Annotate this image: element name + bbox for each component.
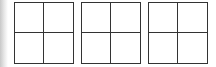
- grid-2-cell-bottom-right: [111, 33, 140, 63]
- grid-1-cell-bottom-right: [44, 33, 73, 63]
- grid-2-cell-bottom-left: [82, 33, 111, 63]
- grid-3: [148, 2, 208, 64]
- grid-3-cell-bottom-left: [149, 33, 178, 63]
- grid-1: [14, 2, 74, 64]
- grid-1-cell-top-right: [44, 3, 73, 33]
- grid-1-cell-top-left: [15, 3, 44, 33]
- grid-3-cell-top-left: [149, 3, 178, 33]
- scan-edge-shadow: [0, 0, 8, 67]
- grid-2-cell-top-left: [82, 3, 111, 33]
- grid-2-cell-top-right: [111, 3, 140, 33]
- grid-3-cell-top-right: [178, 3, 207, 33]
- grid-2: [81, 2, 141, 64]
- grid-3-cell-bottom-right: [178, 33, 207, 63]
- grid-1-cell-bottom-left: [15, 33, 44, 63]
